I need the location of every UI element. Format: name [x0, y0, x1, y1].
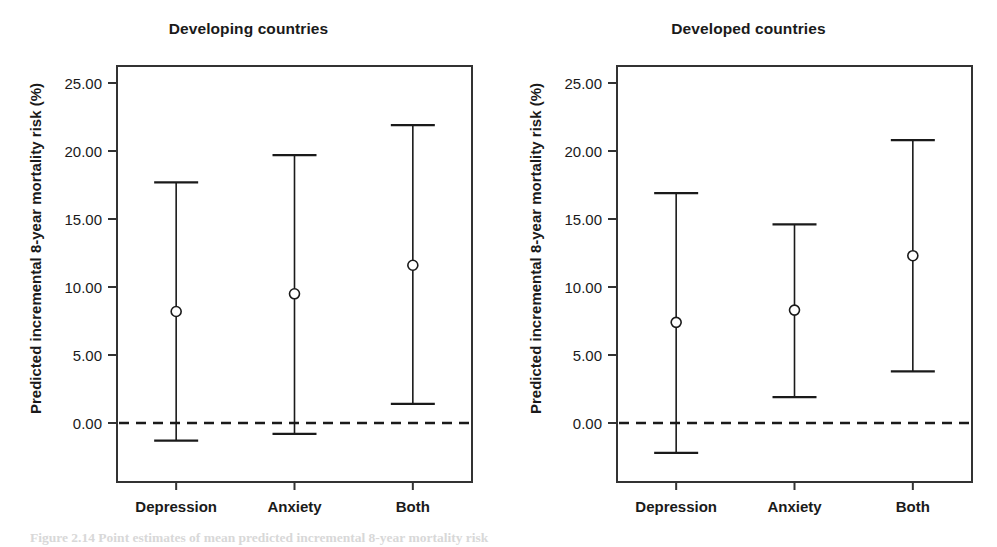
- y-tick-label: 5.00: [73, 347, 102, 364]
- plot-area-developed: 25.0020.0015.0010.005.000.00DepressionAn…: [500, 0, 997, 520]
- x-category-label: Anxiety: [767, 498, 822, 515]
- x-category-label: Both: [396, 498, 430, 515]
- x-category-label: Anxiety: [267, 498, 322, 515]
- x-category-label: Depression: [635, 498, 717, 515]
- y-tick-label: 0.00: [73, 415, 102, 432]
- figure-caption: Figure 2.14 Point estimates of mean pred…: [30, 528, 970, 547]
- point-estimate-marker[interactable]: [790, 305, 800, 315]
- y-tick-label: 20.00: [64, 143, 102, 160]
- figure-container: Developing countries Predicted increment…: [0, 0, 997, 547]
- y-tick-label: 20.00: [564, 143, 602, 160]
- point-estimate-marker[interactable]: [171, 306, 181, 316]
- x-category-label: Both: [896, 498, 930, 515]
- point-estimate-marker[interactable]: [671, 317, 681, 327]
- y-tick-label: 10.00: [564, 279, 602, 296]
- y-tick-label: 0.00: [573, 415, 602, 432]
- plot-area-developing: 25.0020.0015.0010.005.000.00DepressionAn…: [0, 0, 497, 520]
- point-estimate-marker[interactable]: [408, 260, 418, 270]
- x-category-label: Depression: [135, 498, 217, 515]
- y-tick-label: 10.00: [64, 279, 102, 296]
- point-estimate-marker[interactable]: [908, 251, 918, 261]
- y-tick-label: 25.00: [564, 75, 602, 92]
- y-tick-label: 5.00: [573, 347, 602, 364]
- y-tick-label: 15.00: [564, 211, 602, 228]
- panel-developing: Developing countries Predicted increment…: [0, 0, 497, 520]
- y-tick-label: 15.00: [64, 211, 102, 228]
- y-tick-label: 25.00: [64, 75, 102, 92]
- point-estimate-marker[interactable]: [290, 289, 300, 299]
- panel-developed: Developed countries Predicted incrementa…: [500, 0, 997, 520]
